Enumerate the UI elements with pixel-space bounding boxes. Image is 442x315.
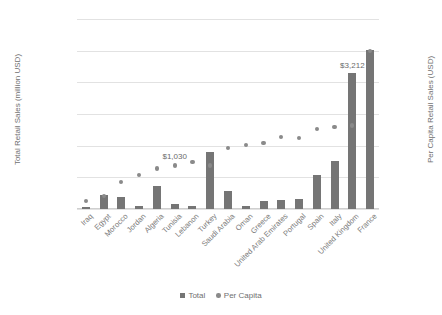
marker-per-capita[interactable] <box>190 160 194 164</box>
chart-column[interactable] <box>130 19 148 209</box>
marker-per-capita[interactable] <box>137 173 141 177</box>
x-axis-category-labels: IraqEgyptMoroccoJordanAlgeriaTunisiaLeba… <box>77 211 379 291</box>
bar-total[interactable] <box>82 207 90 209</box>
marker-per-capita[interactable] <box>226 146 230 150</box>
marker-per-capita[interactable] <box>315 127 319 131</box>
marker-per-capita[interactable] <box>84 199 88 203</box>
marker-per-capita[interactable] <box>332 125 336 129</box>
chart-column[interactable] <box>184 19 202 209</box>
plot-area: $-$50,000$100,000$150,000$200,000$250,00… <box>77 19 379 209</box>
marker-per-capita[interactable] <box>155 166 159 170</box>
chart-column[interactable]: $3,212 <box>343 19 361 209</box>
legend-square-icon <box>180 293 185 298</box>
chart-column[interactable] <box>201 19 219 209</box>
marker-per-capita[interactable] <box>297 136 301 140</box>
marker-per-capita[interactable] <box>208 163 212 167</box>
y-axis-primary-title: Total Retail Sales (million USD) <box>13 35 22 185</box>
legend-circle-icon <box>216 293 221 298</box>
chart-column[interactable] <box>326 19 344 209</box>
chart-legend: TotalPer Capita <box>0 291 442 300</box>
y-axis-secondary-title: Per Capita Retail Sales (USD) <box>426 35 435 185</box>
chart-column[interactable] <box>272 19 290 209</box>
chart-column[interactable] <box>113 19 131 209</box>
marker-per-capita[interactable] <box>261 141 265 145</box>
marker-per-capita[interactable] <box>368 49 372 53</box>
legend-label: Total <box>188 291 205 300</box>
chart-container: Total Retail Sales (million USD) Per Cap… <box>0 0 442 315</box>
chart-column[interactable] <box>77 19 95 209</box>
legend-item[interactable]: Total <box>180 291 205 300</box>
legend-item[interactable]: Per Capita <box>216 291 261 300</box>
chart-column[interactable] <box>290 19 308 209</box>
bar-total[interactable] <box>366 50 374 209</box>
bar-total[interactable] <box>348 73 356 209</box>
marker-per-capita[interactable] <box>279 135 283 139</box>
chart-column[interactable] <box>95 19 113 209</box>
chart-column[interactable]: $1,030 <box>166 19 184 209</box>
chart-column[interactable] <box>148 19 166 209</box>
chart-column[interactable] <box>361 19 379 209</box>
chart-column[interactable] <box>237 19 255 209</box>
chart-column[interactable] <box>219 19 237 209</box>
marker-per-capita[interactable] <box>173 163 177 167</box>
marker-per-capita[interactable] <box>102 194 106 198</box>
marker-per-capita[interactable] <box>350 123 354 127</box>
marker-per-capita[interactable] <box>119 180 123 184</box>
marker-per-capita[interactable] <box>244 143 248 147</box>
legend-label: Per Capita <box>224 291 262 300</box>
